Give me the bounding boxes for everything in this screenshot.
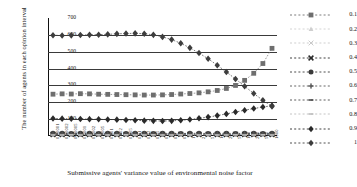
legend-item-0.7[interactable]: 0.7 <box>288 93 357 107</box>
data-point <box>160 92 165 97</box>
x-tick-label: 5 <box>210 137 215 139</box>
legend-marker-x-bold-icon <box>288 51 334 65</box>
data-point <box>178 117 183 124</box>
data-point <box>260 104 265 111</box>
data-point <box>105 92 110 97</box>
data-point <box>132 30 137 37</box>
legend-item-0.2[interactable]: 0.2 <box>288 22 357 36</box>
x-tick-label: 0.5 <box>182 133 187 139</box>
x-tick-label: 50 <box>237 134 242 139</box>
x-tick-label: 100 <box>246 132 251 139</box>
data-point <box>114 92 119 97</box>
x-tick-label: 0.00005 <box>73 123 78 139</box>
data-point <box>205 55 210 62</box>
data-point <box>142 93 147 98</box>
legend-marker-circle-icon <box>288 65 334 79</box>
data-point <box>187 116 192 123</box>
data-point <box>242 78 247 83</box>
x-tick-label: 0.00002 <box>64 123 69 139</box>
chart-figure: The number of agents in each opinion int… <box>0 0 357 187</box>
data-point <box>78 32 83 39</box>
data-point <box>233 83 238 88</box>
data-point <box>105 116 110 123</box>
data-point <box>187 134 192 136</box>
data-point <box>233 109 238 116</box>
x-tick-label: 0.0002 <box>91 126 96 139</box>
legend-item-1[interactable]: 1 <box>288 136 357 150</box>
data-point <box>87 91 92 96</box>
data-point <box>270 46 275 51</box>
data-point <box>50 32 55 39</box>
legend-item-0.8[interactable]: 0.8 <box>288 107 357 121</box>
data-point <box>215 88 220 93</box>
data-point <box>242 83 247 90</box>
legend-label: 0.7 <box>349 97 357 103</box>
data-point <box>51 92 56 97</box>
data-point <box>69 116 74 123</box>
legend-item-0.3[interactable]: 0.3 <box>288 36 357 50</box>
series-0.1 <box>51 46 275 97</box>
x-tick-label: 0.002 <box>118 128 123 139</box>
legend-marker-dash-light-icon <box>288 107 334 121</box>
data-point <box>87 116 92 123</box>
legend-label: 0.9 <box>349 125 357 131</box>
data-point <box>124 92 129 97</box>
series-line <box>53 48 272 95</box>
x-tick-label: 0.01 <box>137 131 142 139</box>
legend-item-0.6[interactable]: 0.6 <box>288 79 357 93</box>
legend-label: 0.5 <box>349 68 357 74</box>
data-point <box>260 61 265 66</box>
data-point <box>196 50 201 57</box>
data-point <box>160 34 165 41</box>
data-point <box>133 92 138 97</box>
data-point <box>206 89 211 94</box>
x-tick-label: 0.00001 <box>55 123 60 139</box>
series-plot <box>48 18 277 136</box>
x-tick-label: 0.0005 <box>100 126 105 139</box>
data-point <box>123 117 128 124</box>
series-1 <box>50 30 274 110</box>
data-point <box>78 91 83 96</box>
data-point <box>224 111 229 118</box>
legend-label: 0.4 <box>349 54 357 60</box>
data-point <box>205 114 210 121</box>
legend-marker-square-icon <box>288 8 334 22</box>
data-point <box>142 117 147 124</box>
x-tick-label: 0.05 <box>155 131 160 139</box>
data-point <box>169 36 174 43</box>
data-point <box>105 31 110 38</box>
series-0.9 <box>50 102 274 124</box>
x-tick-label: 0.2 <box>173 133 178 139</box>
data-point <box>60 91 65 96</box>
legend-marker-triangle-icon <box>288 22 334 36</box>
x-tick-label: 0.1 <box>164 133 169 139</box>
data-point <box>197 134 202 136</box>
legend-item-0.9[interactable]: 0.9 <box>288 122 357 136</box>
legend-label: 0.6 <box>349 82 357 88</box>
legend-item-0.5[interactable]: 0.5 <box>288 65 357 79</box>
legend-item-0.4[interactable]: 0.4 <box>288 51 357 65</box>
data-point <box>59 115 64 122</box>
legend-item-0.1[interactable]: 0.1 <box>288 8 357 22</box>
x-tick-label: 0.001 <box>109 128 114 139</box>
data-point <box>196 115 201 122</box>
legend-label: 0.8 <box>349 111 357 117</box>
data-point <box>96 92 101 97</box>
data-point <box>215 112 220 119</box>
legend-marker-diamond-icon <box>288 122 334 136</box>
x-tick-label: 1 <box>191 137 196 139</box>
data-point <box>178 40 183 47</box>
legend-marker-x-light-icon <box>288 36 334 50</box>
x-axis-title: Submissive agents' variance value of env… <box>0 169 320 177</box>
x-tick-label: 1000 <box>274 129 279 139</box>
data-point <box>123 30 128 37</box>
legend-label: 0.2 <box>349 26 357 32</box>
data-point <box>69 32 74 39</box>
data-point <box>178 92 183 97</box>
x-tick-label: 2 <box>201 137 206 139</box>
x-tick-label: 500 <box>264 132 269 139</box>
data-point <box>242 107 247 114</box>
legend-label: 0.1 <box>349 11 357 17</box>
x-tick-label: 20 <box>228 134 233 139</box>
data-point <box>233 76 238 83</box>
